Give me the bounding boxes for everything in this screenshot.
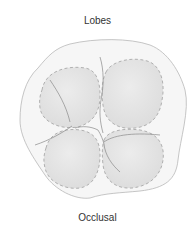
diagram-caption: Occlusal [0,212,195,223]
tooth-occlusal-diagram [0,0,195,233]
lobe-mesiolingual [44,130,100,189]
lobe-distobuccal [102,59,163,128]
crown-outline [20,40,186,199]
